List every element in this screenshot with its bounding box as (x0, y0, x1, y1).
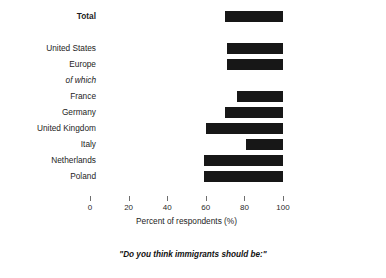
plot-track (90, 9, 283, 23)
category-label: Total (0, 9, 96, 23)
chart-row: Germany (0, 105, 386, 119)
chart-caption: "Do you think immigrants should be:" (0, 250, 386, 259)
plot-track (90, 121, 283, 135)
x-axis-tick (90, 196, 91, 201)
x-axis-tick (167, 196, 168, 201)
plot-track (90, 105, 283, 119)
x-axis-tick-label: 100 (268, 203, 298, 212)
x-axis-tick (129, 196, 130, 201)
category-label: Italy (0, 137, 96, 151)
chart-row: Netherlands (0, 153, 386, 167)
x-axis-tick (206, 196, 207, 201)
chart-row: of which (0, 73, 386, 87)
bar (237, 91, 283, 102)
chart-row: United States (0, 41, 386, 55)
x-axis-tick (283, 196, 284, 201)
chart-row: Italy (0, 137, 386, 151)
plot-track (90, 169, 283, 183)
category-label: Netherlands (0, 153, 96, 167)
plot-track (90, 137, 283, 151)
chart-row: Europe (0, 57, 386, 71)
bar-chart: TotalUnited StatesEuropeof whichFranceGe… (0, 0, 386, 278)
bar (227, 59, 283, 70)
bar (206, 123, 283, 134)
x-axis-tick (244, 196, 245, 201)
chart-row: United Kingdom (0, 121, 386, 135)
plot-track (90, 57, 283, 71)
x-axis-title: Percent of respondents (%) (90, 216, 283, 226)
bar (204, 171, 283, 182)
bar (225, 11, 283, 22)
chart-row: Total (0, 9, 386, 23)
plot-track (90, 73, 283, 87)
category-label: France (0, 89, 96, 103)
category-label: Europe (0, 57, 96, 71)
chart-row: Poland (0, 169, 386, 183)
bar (204, 155, 283, 166)
chart-row: France (0, 89, 386, 103)
x-axis: 020406080100 (90, 196, 283, 197)
x-axis-tick-label: 40 (152, 203, 182, 212)
x-axis-tick-label: 0 (75, 203, 105, 212)
category-label: of which (0, 73, 96, 87)
category-label: United Kingdom (0, 121, 96, 135)
category-label: Poland (0, 169, 96, 183)
category-label: United States (0, 41, 96, 55)
bar (246, 139, 283, 150)
bar (227, 43, 283, 54)
plot-track (90, 153, 283, 167)
plot-track (90, 41, 283, 55)
x-axis-tick-label: 20 (114, 203, 144, 212)
x-axis-tick-label: 80 (229, 203, 259, 212)
x-axis-tick-label: 60 (191, 203, 221, 212)
bar (225, 107, 283, 118)
plot-track (90, 89, 283, 103)
category-label: Germany (0, 105, 96, 119)
